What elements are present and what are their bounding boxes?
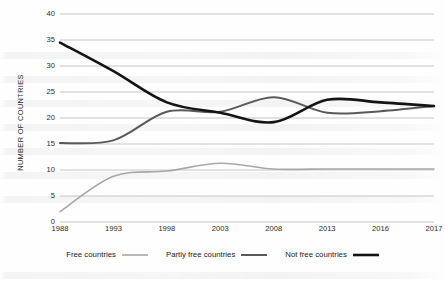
legend-label: Not free countries: [285, 250, 347, 259]
gridlines: [60, 14, 434, 222]
legend-item-partly-free-countries[interactable]: Partly free countries: [166, 250, 267, 259]
line-chart: NUMBER OF COUNTRIES 0510152025303540 198…: [0, 0, 445, 282]
legend-item-free-countries[interactable]: Free countries: [66, 250, 148, 259]
legend-swatch: [353, 251, 379, 259]
legend-item-not-free-countries[interactable]: Not free countries: [285, 250, 379, 259]
plot-area: [0, 0, 445, 282]
legend-label: Partly free countries: [166, 250, 235, 259]
legend-label: Free countries: [66, 250, 116, 259]
series-lines: [60, 43, 434, 212]
chart-legend: Free countriesPartly free countriesNot f…: [0, 250, 445, 259]
legend-swatch: [241, 251, 267, 259]
series-line-free-countries: [60, 163, 434, 211]
legend-swatch: [122, 251, 148, 259]
